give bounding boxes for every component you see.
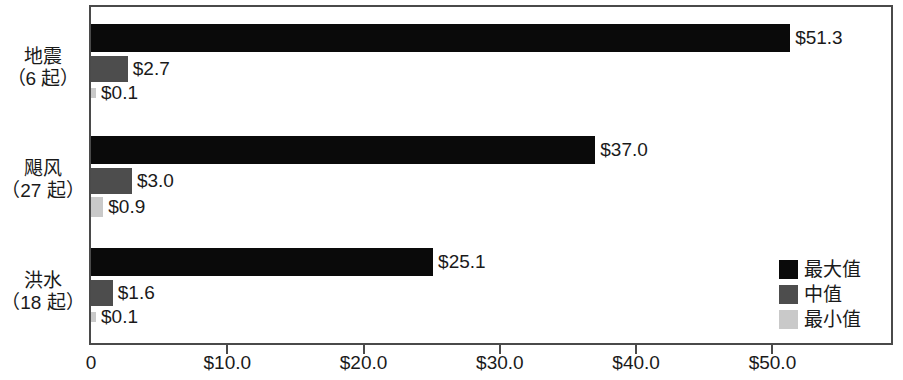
bar-value-label-flood-min: $0.1 <box>101 307 138 326</box>
bar-earthquake-median <box>91 56 128 82</box>
category-label-hurricane: 飓风 （27 起） <box>0 158 86 202</box>
bar-flood-max <box>91 248 433 276</box>
legend-swatch-median-icon <box>779 285 798 304</box>
bar-hurricane-min <box>91 197 103 217</box>
x-axis-tick-label: $20.0 <box>340 353 388 372</box>
x-axis-tick-label: $10.0 <box>204 353 252 372</box>
x-axis-tick-label: $40.0 <box>612 353 660 372</box>
bar-hurricane-max <box>91 136 595 164</box>
bar-value-label-flood-max: $25.1 <box>438 252 486 271</box>
bar-earthquake-max <box>91 24 790 52</box>
legend-label-median: 中值 <box>804 285 842 304</box>
legend-item-min: 最小值 <box>779 307 861 332</box>
bar-value-label-flood-median: $1.6 <box>118 283 155 302</box>
bar-value-label-earthquake-max: $51.3 <box>795 28 843 47</box>
x-axis-tick-label: 0 <box>86 353 97 372</box>
bar-flood-min <box>91 312 96 322</box>
category-label-flood: 洪水 （18 起） <box>0 270 86 314</box>
category-count: （18 起） <box>0 292 86 314</box>
category-name: 飓风 <box>0 158 86 180</box>
bar-flood-median <box>91 280 113 306</box>
category-name: 洪水 <box>0 270 86 292</box>
bar-earthquake-min <box>91 88 96 98</box>
category-label-earthquake: 地震 （6 起） <box>0 46 86 90</box>
bar-value-label-hurricane-max: $37.0 <box>600 140 648 159</box>
legend-swatch-max-icon <box>779 260 798 279</box>
legend-item-median: 中值 <box>779 282 861 307</box>
legend-item-max: 最大值 <box>779 257 861 282</box>
legend-label-min: 最小值 <box>804 310 861 329</box>
category-name: 地震 <box>0 46 86 68</box>
legend-swatch-min-icon <box>779 310 798 329</box>
bar-chart: 地震 （6 起） 飓风 （27 起） 洪水 （18 起） $51.3$2.7$0… <box>0 0 903 380</box>
plot-area: $51.3$2.7$0.1$37.0$3.0$0.9$25.1$1.6$0.1 <box>89 5 893 345</box>
bar-hurricane-median <box>91 168 132 194</box>
bar-value-label-hurricane-median: $3.0 <box>137 171 174 190</box>
bar-value-label-earthquake-median: $2.7 <box>133 59 170 78</box>
category-count: （6 起） <box>0 68 86 90</box>
x-axis-tick-label: $50.0 <box>749 353 797 372</box>
category-count: （27 起） <box>0 180 86 202</box>
legend-label-max: 最大值 <box>804 260 861 279</box>
x-axis-tick-label: $30.0 <box>476 353 524 372</box>
bar-value-label-earthquake-min: $0.1 <box>101 83 138 102</box>
bar-value-label-hurricane-min: $0.9 <box>108 197 145 216</box>
chart-legend: 最大值 中值 最小值 <box>779 257 861 332</box>
